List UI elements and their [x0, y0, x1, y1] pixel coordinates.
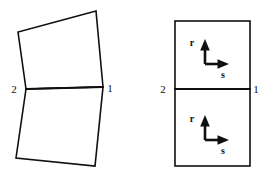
physical-node-label-1: 1 [107, 82, 113, 94]
upper-quadrilateral [18, 11, 103, 89]
element-mapping-figure: 2 1 r s r [0, 0, 268, 180]
reference-node-label-2: 2 [160, 83, 166, 95]
lower-reference-rectangle [175, 89, 250, 166]
upper-s-axis-label: s [221, 69, 225, 80]
physical-node-label-2: 2 [11, 83, 17, 95]
figure-root: 2 1 r s r [0, 0, 268, 180]
physical-element-pair: 2 1 [11, 11, 113, 166]
upper-reference-rectangle [175, 21, 250, 89]
lower-s-axis-label: s [221, 145, 225, 156]
upper-r-axis-label: r [190, 37, 195, 48]
lower-r-axis-label: r [190, 113, 195, 124]
lower-quadrilateral [16, 87, 103, 166]
reference-node-label-1: 1 [253, 83, 259, 95]
natural-coordinate-elements: r s r s 2 1 [160, 21, 259, 166]
